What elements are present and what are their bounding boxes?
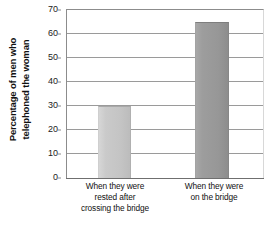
y-tick-20: 20	[48, 125, 58, 134]
y-tick-40: 40	[48, 77, 58, 86]
x-label-line: When they were	[155, 181, 273, 192]
x-axis-labels: When they were rested after crossing the…	[66, 181, 262, 227]
bar-rested-after-crossing[interactable]	[98, 106, 131, 178]
x-label-on-the-bridge: When they were on the bridge	[155, 181, 273, 203]
y-tick-10: 10	[48, 149, 58, 158]
y-axis-title-line-2: telephoned the woman	[20, 37, 33, 140]
y-tick-60: 60	[48, 29, 58, 38]
y-tick-mark	[58, 105, 61, 106]
plot-area	[66, 9, 264, 178]
x-label-line: crossing the bridge	[56, 203, 174, 214]
y-tick-label: 20	[48, 124, 58, 134]
y-tick-label: 30	[48, 100, 58, 110]
y-tick-label: 10	[48, 148, 58, 158]
y-tick-label: 40	[48, 76, 58, 86]
y-tick-label: 70	[48, 4, 58, 14]
y-axis-ticks: 70 60 50 40 30 20 10 0	[38, 0, 62, 186]
y-tick-mark	[58, 9, 61, 10]
bar-on-the-bridge[interactable]	[195, 22, 229, 178]
bars-layer	[67, 10, 263, 178]
y-axis-title-line-1: Percentage of men who	[8, 37, 21, 140]
y-tick-label: 50	[48, 52, 58, 62]
y-tick-mark	[58, 129, 61, 130]
x-label-line: on the bridge	[155, 192, 273, 203]
y-tick-30: 30	[48, 101, 58, 110]
y-axis-title: Percentage of men who telephoned the wom…	[0, 0, 40, 178]
y-tick-50: 50	[48, 53, 58, 62]
y-tick-mark	[58, 57, 61, 58]
y-tick-mark	[58, 153, 61, 154]
bar-chart: Percentage of men who telephoned the wom…	[0, 0, 274, 228]
x-axis-line	[66, 178, 264, 179]
y-tick-70: 70	[48, 5, 58, 14]
y-tick-mark	[58, 81, 61, 82]
y-tick-mark	[58, 177, 61, 178]
y-tick-label: 60	[48, 28, 58, 38]
y-tick-mark	[58, 33, 61, 34]
